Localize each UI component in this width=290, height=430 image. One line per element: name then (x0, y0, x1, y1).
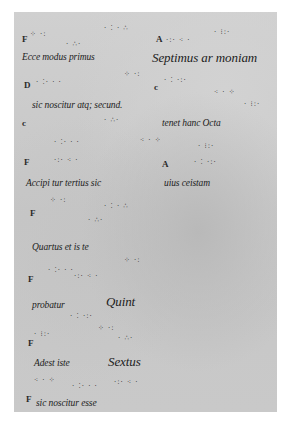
neume-group: · ∴· (104, 116, 119, 124)
clef-letter: c (22, 118, 26, 128)
clef-letter: D (24, 80, 31, 90)
neume-group: ·:· ⁖ · (54, 156, 79, 164)
manuscript-page: F ⁘ ·: · ∴· · ⁚ · ∴ A ·:· ⁖ · · ⁝:· Ecce… (14, 12, 277, 412)
neume-group: · ⁝:· (214, 28, 230, 36)
neume-group: ⁖ · ⁘ (214, 88, 236, 96)
neume-group: · ⁚ · ∴ (104, 24, 129, 32)
text-line: sic noscitur esse (36, 398, 97, 408)
clef-letter: A (162, 159, 169, 169)
clef-letter: F (22, 34, 28, 44)
text-line: Quint (106, 294, 135, 310)
neume-group: · ∴· (118, 334, 133, 342)
neume-group: ⁖ · ⁘ (140, 136, 162, 144)
neume-group: ·:· ⁖ · (114, 378, 139, 386)
clef-letter: c (154, 82, 158, 92)
clef-letter: F (24, 157, 30, 167)
neume-group: ⁘ ·: (50, 196, 67, 204)
neume-group: ⁖ · ⁘ (34, 376, 56, 384)
neume-group: ⁘ ·: (124, 70, 141, 78)
neume-group: ⁘ ·: (30, 30, 47, 38)
neume-group: · ⁚ ·:· (194, 158, 217, 166)
neume-group: · ⁚ ·:· (70, 312, 93, 320)
neume-group: · ⁚ ·:· (164, 76, 187, 84)
neume-group: ·:· ⁖ · (74, 272, 99, 280)
text-line: uius ceistam (164, 178, 210, 188)
neume-group: · ⁚· · · (72, 382, 98, 390)
clef-letter: F (30, 208, 36, 218)
text-line: Septimus ar moniam (152, 50, 257, 66)
neume-group: ⁘ ·: (124, 256, 141, 264)
neume-group: · ⁝:· (198, 142, 214, 150)
clef-letter: F (26, 394, 32, 404)
text-line: Ecce modus primus (22, 52, 95, 62)
text-line: Adest iste (34, 358, 70, 368)
neume-group: ⁘ ·: (98, 324, 115, 332)
neume-group: · ⁚· · · (48, 266, 74, 274)
neume-group: · ⁝:· (34, 330, 50, 338)
neume-group: · ⁚· · · (36, 78, 62, 86)
text-line: probatur (32, 300, 65, 310)
text-line: Accipi tur tertius sic (26, 178, 101, 188)
clef-letter: F (28, 338, 34, 348)
text-line: tenet hanc Octa (162, 118, 221, 128)
neume-group: · ∴· (66, 40, 81, 48)
neume-group: · ⁚· · · (54, 138, 80, 146)
text-line: sic noscitur atq; secund. (32, 100, 122, 110)
clef-letter: A (156, 34, 163, 44)
text-line: Sextus (108, 354, 141, 370)
neume-group: · ∴· (88, 216, 103, 224)
neume-group: · ⁚ · ∴ (104, 202, 129, 210)
text-line: Quartus et is te (32, 242, 89, 252)
clef-letter: F (28, 274, 34, 284)
neume-group: ·:· ⁖ · (166, 36, 191, 44)
neume-group: · ⁝:· (244, 100, 260, 108)
